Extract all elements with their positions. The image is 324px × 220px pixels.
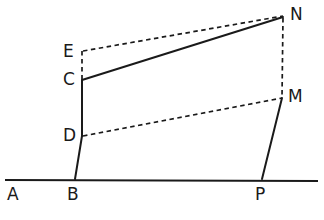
dashed-lines-group [82,16,283,136]
vertex-label-A: A [7,186,19,203]
vertex-label-D: D [63,127,76,144]
vertex-label-M: M [288,88,303,105]
segment-E-N [83,16,283,51]
segment-C-N [82,17,283,80]
vertex-label-C: C [63,71,75,88]
baseline-AP [5,180,318,181]
vertex-label-N: N [290,6,303,23]
solid-lines-group [5,17,318,181]
vertex-label-B: B [67,186,79,203]
segment-N-M [282,18,283,97]
vertex-label-P: P [255,186,265,203]
geometry-figure: ABPCDEMN [0,0,324,220]
segment-M-P [262,98,282,179]
segment-D-M [83,98,282,136]
figure-canvas [0,0,324,220]
vertex-label-E: E [63,43,74,60]
